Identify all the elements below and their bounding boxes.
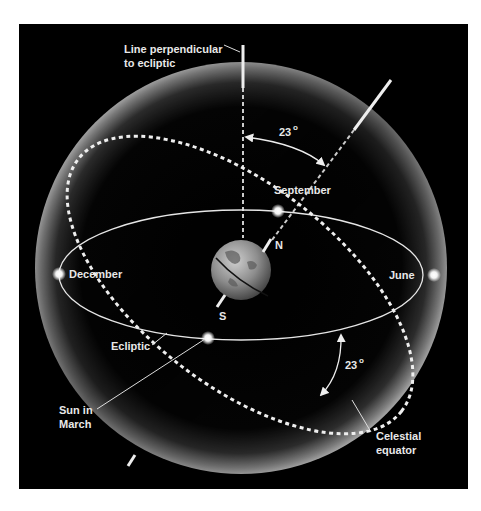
label-sun-in-march-2: March bbox=[59, 418, 92, 430]
label-angle-top-degree: o bbox=[293, 123, 298, 132]
label-perpendicular-line-2: to ecliptic bbox=[124, 57, 175, 69]
label-celestial-equator: Celestial bbox=[376, 430, 421, 442]
label-angle-bottom: 23 bbox=[345, 359, 357, 371]
sun-june-marker bbox=[427, 268, 441, 282]
label-celestial-equator-2: equator bbox=[376, 444, 417, 456]
celestial-sphere-diagram: Line perpendicular to ecliptic 23 o Sept… bbox=[0, 0, 481, 511]
label-december: December bbox=[69, 268, 123, 280]
label-south: S bbox=[219, 310, 226, 322]
label-june: June bbox=[389, 269, 415, 281]
earth-axis-outer-bottom bbox=[128, 455, 135, 466]
label-angle-top: 23 bbox=[279, 126, 291, 138]
sun-december-marker bbox=[52, 267, 66, 281]
label-perpendicular-line: Line perpendicular bbox=[124, 43, 223, 55]
sun-september-marker bbox=[271, 204, 285, 218]
sun-march-marker bbox=[201, 331, 215, 345]
label-sun-in-march: Sun in bbox=[59, 404, 93, 416]
label-north: N bbox=[275, 239, 283, 251]
leader-perpendicular bbox=[224, 45, 240, 52]
label-ecliptic: Ecliptic bbox=[111, 340, 150, 352]
label-september: September bbox=[274, 184, 332, 196]
label-angle-bottom-degree: o bbox=[359, 356, 364, 365]
